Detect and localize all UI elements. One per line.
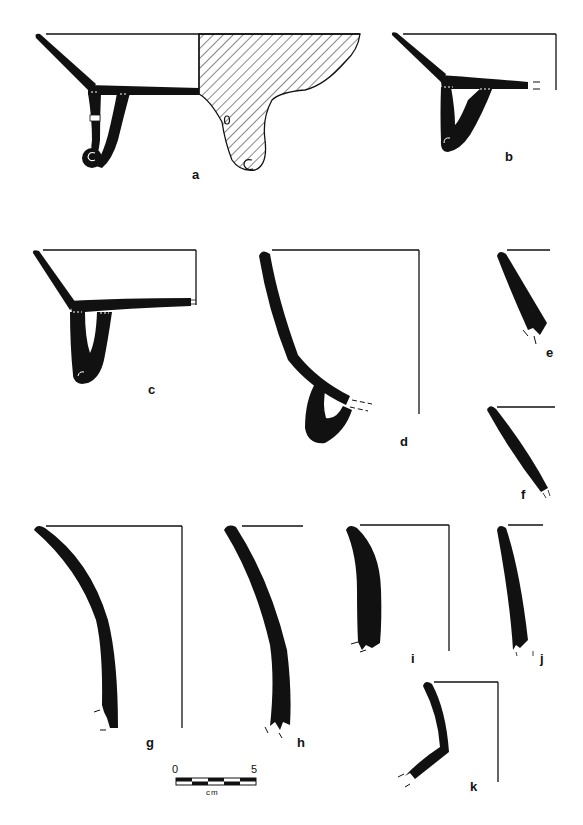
label-h: h xyxy=(297,736,305,749)
label-g: g xyxy=(146,736,154,749)
profile-a xyxy=(36,34,361,170)
label-a: a xyxy=(192,168,199,181)
profile-k xyxy=(398,682,498,787)
profile-h xyxy=(224,526,303,738)
profile-j xyxy=(497,525,543,656)
profile-f xyxy=(487,406,555,498)
profile-e xyxy=(497,250,550,344)
scale-bar xyxy=(176,778,256,785)
scale-unit-label: cm xyxy=(206,789,219,797)
profile-c xyxy=(33,250,196,384)
label-j: j xyxy=(540,652,544,665)
profile-d xyxy=(259,250,419,443)
scale-start-label: 0 xyxy=(172,764,178,775)
label-k: k xyxy=(470,780,477,793)
profile-i xyxy=(346,525,449,652)
label-d: d xyxy=(400,435,408,448)
label-b: b xyxy=(505,150,513,163)
label-i: i xyxy=(411,652,415,665)
profile-g xyxy=(34,526,182,730)
profile-b xyxy=(392,32,556,152)
pottery-profiles-drawing xyxy=(0,0,583,825)
label-e: e xyxy=(546,346,553,359)
label-c: c xyxy=(148,383,155,396)
label-f: f xyxy=(521,488,525,501)
scale-end-label: 5 xyxy=(251,764,257,775)
